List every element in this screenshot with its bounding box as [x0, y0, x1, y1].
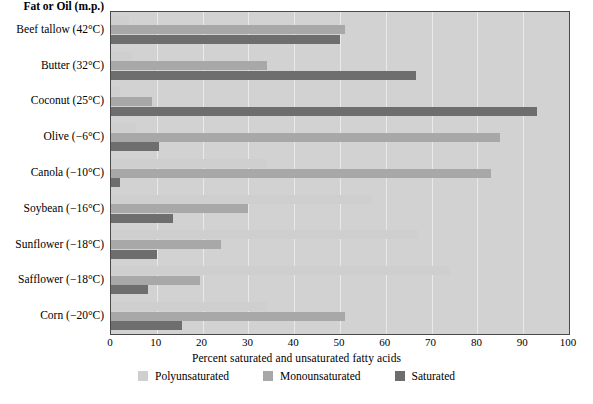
bar-poly — [111, 266, 450, 275]
category-label: Safflower (−18°C) — [0, 273, 104, 285]
bar-sat — [111, 107, 537, 116]
bar-poly — [111, 123, 136, 132]
category-label: Coconut (25°C) — [0, 94, 104, 106]
legend-swatch-icon — [395, 371, 405, 381]
bar-mono — [111, 312, 345, 321]
category-label: Corn (−20°C) — [0, 309, 104, 321]
bar-poly — [111, 195, 372, 204]
x-axis-title: Percent saturated and unsaturated fatty … — [0, 352, 593, 364]
category-label: Sunflower (−18°C) — [0, 238, 104, 250]
bar-mono — [111, 276, 200, 285]
category-label: Soybean (−16°C) — [0, 202, 104, 214]
x-tick-label: 10 — [150, 336, 161, 348]
bar-mono — [111, 97, 152, 106]
bar-poly — [111, 230, 418, 239]
bar-mono — [111, 25, 345, 34]
bar-poly — [111, 16, 129, 25]
legend-label: Polyunsaturated — [155, 370, 229, 382]
chart-header-label: Fat or Oil (m.p.) — [0, 0, 104, 12]
bar-sat — [111, 250, 157, 259]
legend-item[interactable]: Polyunsaturated — [138, 370, 229, 382]
bar-sat — [111, 214, 173, 223]
category-label: Canola (−10°C) — [0, 166, 104, 178]
gridline — [523, 12, 524, 334]
bar-poly — [111, 87, 120, 96]
bar-sat — [111, 321, 182, 330]
bar-mono — [111, 240, 221, 249]
bar-poly — [111, 52, 132, 61]
bar-mono — [111, 204, 248, 213]
bar-mono — [111, 133, 500, 142]
legend-label: Saturated — [412, 370, 455, 382]
bar-mono — [111, 61, 267, 70]
x-axis-ticks: 0102030405060708090100 — [110, 334, 569, 352]
x-tick-label: 60 — [379, 336, 390, 348]
x-tick-label: 30 — [242, 336, 253, 348]
x-tick-label: 100 — [560, 336, 577, 348]
bar-sat — [111, 142, 159, 151]
bar-poly — [111, 159, 267, 168]
bar-sat — [111, 71, 416, 80]
fatty-acid-composition-chart: Fat or Oil (m.p.) Beef tallow (42°C)Butt… — [0, 0, 593, 404]
legend-swatch-icon — [263, 371, 273, 381]
category-label: Butter (32°C) — [0, 59, 104, 71]
bar-sat — [111, 35, 340, 44]
category-label: Beef tallow (42°C) — [0, 23, 104, 35]
category-label-column: Fat or Oil (m.p.) Beef tallow (42°C)Butt… — [0, 0, 108, 333]
x-tick-label: 20 — [196, 336, 207, 348]
bar-poly — [111, 302, 267, 311]
bar-sat — [111, 178, 120, 187]
x-tick-label: 80 — [471, 336, 482, 348]
legend-swatch-icon — [138, 371, 148, 381]
x-tick-label: 0 — [107, 336, 113, 348]
chart-legend: PolyunsaturatedMonounsaturatedSaturated — [0, 370, 593, 382]
x-tick-label: 70 — [425, 336, 436, 348]
legend-item[interactable]: Monounsaturated — [263, 370, 360, 382]
bar-mono — [111, 169, 491, 178]
x-tick-label: 50 — [334, 336, 345, 348]
legend-item[interactable]: Saturated — [395, 370, 455, 382]
category-label: Olive (−6°C) — [0, 130, 104, 142]
plot-area — [110, 11, 570, 335]
legend-label: Monounsaturated — [280, 370, 360, 382]
x-tick-label: 90 — [517, 336, 528, 348]
bar-sat — [111, 285, 148, 294]
x-tick-label: 40 — [288, 336, 299, 348]
